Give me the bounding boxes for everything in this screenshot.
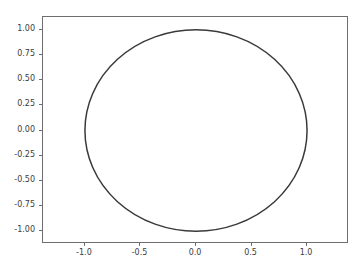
x-tick-label: 0.0 [189,249,202,257]
x-tick-label: -1.0 [76,249,92,257]
y-tick-label: 0.00 [2,126,35,134]
y-tick-label: -1.00 [2,226,35,234]
plot-area [43,17,349,244]
x-tick-label: -0.5 [132,249,148,257]
x-tick-label: 1.0 [300,249,313,257]
x-tick-label: 0.5 [244,249,257,257]
y-tick-label: 1.00 [2,25,35,33]
y-tick-label: 0.25 [2,100,35,108]
unit-circle-curve [85,30,307,231]
y-tick-label: 0.75 [2,50,35,58]
plot-axes [42,16,348,243]
y-tick-label: 0.50 [2,75,35,83]
y-tick-label: -0.50 [2,176,35,184]
figure-canvas: 1.000.750.500.250.00-0.25-0.50-0.75-1.00… [0,0,361,271]
y-tick-label: -0.25 [2,151,35,159]
y-tick-label: -0.75 [2,201,35,209]
